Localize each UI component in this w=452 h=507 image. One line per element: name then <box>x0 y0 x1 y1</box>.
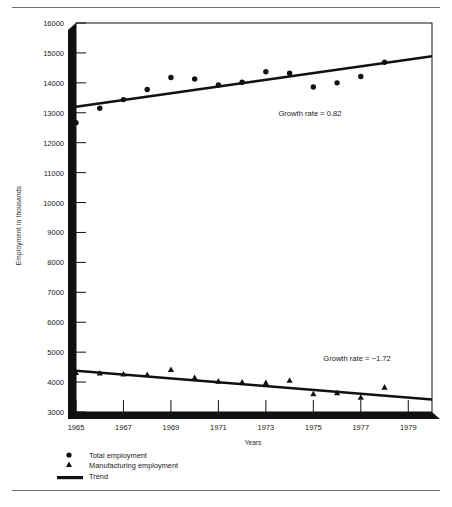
data-point-total-employment <box>382 59 387 64</box>
data-point-total-employment <box>287 71 292 76</box>
y-tick-label: 6000 <box>47 318 64 327</box>
data-point-total-employment <box>358 74 363 79</box>
x-tick-label: 1975 <box>305 423 322 432</box>
chart-plot: 3000400050006000700080009000100001100012… <box>0 0 452 507</box>
data-point-total-employment <box>311 84 316 89</box>
annotation-manufacturing-growth-rate: Growth rate = −1.72 <box>323 354 391 363</box>
y-tick-label: 15000 <box>43 49 64 58</box>
legend-label-manufacturing-employment: Manufacturing employment <box>89 461 178 470</box>
triangle-marker-icon <box>66 462 72 467</box>
x-tick-label: 1965 <box>68 423 85 432</box>
x-tick-label: 1971 <box>210 423 227 432</box>
data-point-total-employment <box>216 82 221 87</box>
y-axis-bar <box>68 23 76 419</box>
y-tick-label: 16000 <box>43 19 64 28</box>
annotation-total-growth-rate: Growth rate = 0.82 <box>278 109 341 118</box>
x-tick-label: 1979 <box>400 423 417 432</box>
data-point-total-employment <box>263 69 268 74</box>
y-tick-label: 8000 <box>47 258 64 267</box>
y-tick-label: 14000 <box>43 79 64 88</box>
data-point-total-employment <box>145 87 150 92</box>
figure-container: Employment in thousands 3000400050006000… <box>0 0 452 507</box>
x-tick-label: 1977 <box>352 423 369 432</box>
data-point-total-employment <box>97 106 102 111</box>
x-tick-label: 1969 <box>163 423 180 432</box>
legend-label-trend: Trend <box>89 472 108 481</box>
y-tick-label: 13000 <box>43 109 64 118</box>
data-point-total-employment <box>73 120 78 125</box>
x-axis-bar <box>68 412 440 419</box>
x-tick-label: 1973 <box>258 423 275 432</box>
data-point-total-employment <box>192 76 197 81</box>
x-tick-label: 1967 <box>115 423 132 432</box>
legend: Total employment Manufacturing employmen… <box>57 451 178 481</box>
y-tick-label: 11000 <box>44 169 64 178</box>
y-tick-label: 3000 <box>47 408 64 417</box>
data-point-total-employment <box>334 80 339 85</box>
data-point-total-employment <box>168 75 173 80</box>
data-point-total-employment <box>239 80 244 85</box>
legend-label-total-employment: Total employment <box>89 451 147 460</box>
y-tick-label: 4000 <box>47 378 64 387</box>
circle-marker-icon <box>66 452 71 457</box>
y-tick-label: 5000 <box>47 348 64 357</box>
y-tick-label: 9000 <box>47 228 64 237</box>
y-tick-label: 10000 <box>43 199 64 208</box>
y-tick-label: 12000 <box>43 139 64 148</box>
y-tick-label: 7000 <box>47 288 64 297</box>
line-marker-icon <box>57 476 83 479</box>
x-axis-title: Years <box>245 439 262 446</box>
data-point-total-employment <box>121 97 126 102</box>
